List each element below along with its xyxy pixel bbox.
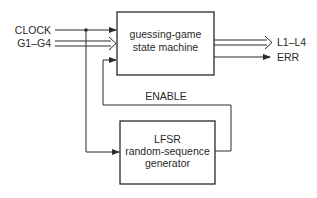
block-diagram: guessing-game state machine LFSR random-… — [0, 0, 317, 198]
clock-label: CLOCK — [15, 24, 51, 36]
lfsr-label-line3: generator — [145, 157, 190, 169]
state-machine-label-line1: guessing-game — [130, 28, 202, 40]
lfsr-label-line1: LFSR — [154, 133, 181, 145]
lights-bus-arrow — [214, 36, 272, 49]
lfsr-label-line2: random-sequence — [125, 145, 210, 157]
state-machine-label-line2: state machine — [133, 41, 199, 53]
enable-label: ENABLE — [145, 90, 186, 102]
error-label: ERR — [277, 51, 300, 63]
guesses-label: G1–G4 — [17, 37, 51, 49]
lights-label: L1–L4 — [277, 36, 306, 48]
